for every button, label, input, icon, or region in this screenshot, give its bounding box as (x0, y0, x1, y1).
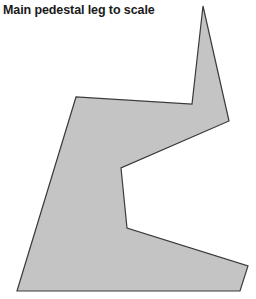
pedestal-leg-diagram (0, 0, 256, 299)
pedestal-leg-shape (17, 6, 248, 291)
